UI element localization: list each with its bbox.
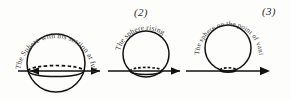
sphere-2-number-label: (2)	[134, 6, 148, 18]
diagram-canvas: The Sphere with his section at full size…	[0, 0, 291, 101]
arrowhead-right-icon-2	[171, 67, 180, 75]
sphere-2-caption: The sphere rising	[113, 23, 167, 52]
sphere-3-number-label: (3)	[262, 5, 276, 17]
sphere-1-group: The Sphere with his section at full size	[0, 0, 99, 92]
sphere-2-group: The sphere rising	[113, 23, 169, 77]
sphere-1-caption: The Sphere with his section at full size	[0, 0, 99, 75]
arrowhead-right-icon-3	[260, 67, 270, 75]
